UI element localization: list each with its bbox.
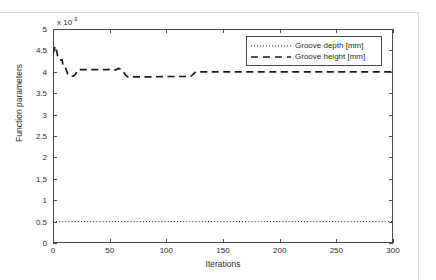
y-axis-multiplier-prefix: x 10: [57, 18, 72, 27]
y-tick-label: 2: [43, 153, 47, 162]
y-tick-right: [389, 222, 393, 223]
y-axis-title: Function parameters: [14, 43, 24, 163]
y-tick: [53, 29, 57, 30]
y-tick: [53, 179, 57, 180]
y-tick-label: 0: [43, 239, 47, 248]
y-tick-right: [389, 157, 393, 158]
y-tick-label: 3: [43, 110, 47, 119]
x-tick-label: 250: [330, 246, 343, 255]
legend-label-groove-depth: Groove depth [mm]: [295, 41, 363, 51]
y-tick-right: [389, 243, 393, 244]
y-axis-multiplier-exponent: -3: [72, 16, 77, 22]
x-tick: [336, 239, 337, 243]
y-tick-right: [389, 72, 393, 73]
y-tick-label: 4: [43, 67, 47, 76]
y-tick: [53, 200, 57, 201]
y-tick-right: [389, 179, 393, 180]
y-tick: [53, 222, 57, 223]
y-tick-label: 1: [43, 196, 47, 205]
x-tick-top: [166, 29, 167, 33]
x-tick-top: [280, 29, 281, 33]
x-axis-title: Iterations: [53, 259, 393, 269]
y-tick-label: 5: [43, 25, 47, 34]
y-tick-right: [389, 29, 393, 30]
x-tick-top: [393, 29, 394, 33]
y-tick-label: 1.5: [36, 174, 47, 183]
x-tick: [393, 239, 394, 243]
chart-legend: Groove depth [mm] Groove height [mm]: [246, 36, 382, 66]
legend-label-groove-height: Groove height [mm]: [295, 52, 365, 62]
x-tick: [110, 239, 111, 243]
x-tick-label: 300: [386, 246, 399, 255]
x-tick-top: [336, 29, 337, 33]
y-tick: [53, 72, 57, 73]
x-tick-label: 50: [105, 246, 114, 255]
y-tick: [53, 50, 57, 51]
y-tick-label: 2.5: [36, 132, 47, 141]
x-tick-label: 200: [273, 246, 286, 255]
y-tick: [53, 136, 57, 137]
x-tick-top: [110, 29, 111, 33]
y-tick-label: 3.5: [36, 89, 47, 98]
y-tick: [53, 157, 57, 158]
y-tick-right: [389, 93, 393, 94]
x-tick: [223, 239, 224, 243]
legend-sample-dashed-icon: [250, 52, 292, 62]
y-tick: [53, 115, 57, 116]
x-tick-top: [223, 29, 224, 33]
legend-sample-dotted-icon: [250, 41, 292, 51]
y-tick-label: 4.5: [36, 46, 47, 55]
x-tick: [280, 239, 281, 243]
y-tick: [53, 243, 57, 244]
x-tick-label: 150: [216, 246, 229, 255]
x-tick-label: 100: [160, 246, 173, 255]
y-tick-right: [389, 200, 393, 201]
x-tick-label: 0: [51, 246, 55, 255]
legend-item-groove-depth: Groove depth [mm]: [250, 40, 377, 51]
legend-item-groove-height: Groove height [mm]: [250, 51, 377, 62]
x-tick: [166, 239, 167, 243]
y-tick-right: [389, 115, 393, 116]
y-tick: [53, 93, 57, 94]
y-tick-label: 0.5: [36, 217, 47, 226]
y-tick-right: [389, 136, 393, 137]
chart-figure: x 10-3 05010015020025030000.511.522.533.…: [0, 0, 436, 280]
y-tick-right: [389, 50, 393, 51]
y-axis-multiplier: x 10-3: [57, 16, 77, 27]
